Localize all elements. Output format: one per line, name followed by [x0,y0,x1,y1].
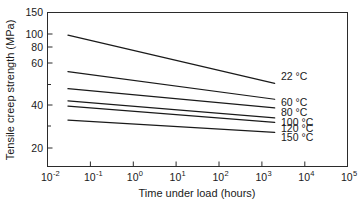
x-tick-label-1e1: 10 1 [170,169,186,183]
x-tick-base-6: 10 [298,171,310,183]
x-tick-exp-1: -1 [96,169,103,178]
x-tick-exp-3: 1 [182,169,186,178]
x-tick-label-1e3: 10 3 [255,169,271,183]
series-line-120-c [68,106,275,122]
data-series-group [68,35,275,132]
series-line-150-c [68,120,275,132]
x-tick-label-1e0: 10 0 [127,169,143,183]
y-tick-label-60: 60 [31,57,43,69]
x-tick-label-1e-2: 10 -2 [41,169,60,183]
chart-canvas: 150 100 80 60 40 20 Tensile creep streng… [0,0,364,208]
x-tick-label-1e2: 10 2 [213,169,229,183]
x-tick-base-5: 10 [255,171,267,183]
y-axis-ticks [48,13,53,149]
y-tick-label-40: 40 [31,99,43,111]
x-tick-base-7: 10 [341,171,353,183]
y-tick-label-150: 150 [25,6,43,18]
x-tick-base-2: 10 [127,171,139,183]
x-tick-exp-4: 2 [225,169,229,178]
y-tick-label-100: 100 [25,28,43,40]
y-axis-title: Tensile creep strength (MPa) [4,20,16,161]
y-tick-label-20: 20 [31,142,43,154]
x-tick-base-1: 10 [84,171,96,183]
y-tick-label-80: 80 [31,41,43,53]
x-axis-ticks [48,162,348,167]
x-tick-exp-7: 5 [353,169,357,178]
x-tick-exp-2: 0 [139,169,143,178]
x-axis-title: Time under load (hours) [139,187,256,199]
x-tick-base-3: 10 [170,171,182,183]
series-line-100-c [68,101,275,118]
x-tick-label-1e5: 10 5 [341,169,357,183]
series-line-80-c [68,89,275,108]
x-tick-exp-0: -2 [53,169,60,178]
x-tick-exp-6: 4 [310,169,314,178]
x-tick-base-4: 10 [213,171,225,183]
x-tick-base-0: 10 [41,171,53,183]
x-tick-label-1e4: 10 4 [298,169,314,183]
series-label-150c: 150 °C [281,131,314,143]
x-tick-label-1e-1: 10 -1 [84,169,103,183]
creep-strength-chart-figure: 150 100 80 60 40 20 Tensile creep streng… [0,0,364,208]
x-tick-exp-5: 3 [267,169,271,178]
series-label-22c: 22 °C [281,70,308,82]
